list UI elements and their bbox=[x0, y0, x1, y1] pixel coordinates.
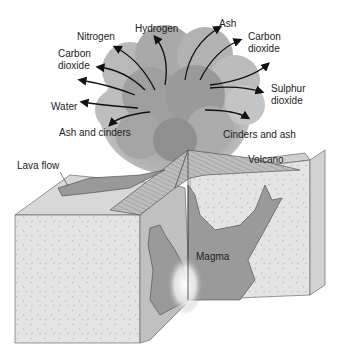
label-lava-flow: Lava flow bbox=[17, 160, 59, 172]
label-cinders-and-ash: Cinders and ash bbox=[223, 129, 296, 141]
eruption-cloud bbox=[95, 25, 265, 175]
label-sulphur-dioxide-2: dioxide bbox=[271, 95, 303, 107]
label-ash-and-cinders: Ash and cinders bbox=[59, 127, 131, 139]
label-ash: Ash bbox=[219, 18, 236, 30]
label-volcano: Volcano bbox=[248, 154, 284, 166]
label-hydrogen: Hydrogen bbox=[135, 23, 178, 35]
label-sulphur-dioxide-1: Sulphur bbox=[271, 83, 305, 95]
volcano-diagram bbox=[0, 0, 338, 353]
label-water: Water bbox=[51, 101, 77, 113]
label-carbon-dioxide-left-1: Carbon bbox=[58, 48, 91, 60]
label-carbon-dioxide-right-2: dioxide bbox=[248, 43, 280, 55]
label-magma: Magma bbox=[196, 251, 229, 263]
label-nitrogen: Nitrogen bbox=[77, 31, 115, 43]
label-carbon-dioxide-left-2: dioxide bbox=[58, 60, 90, 72]
label-carbon-dioxide-right-1: Carbon bbox=[248, 31, 281, 43]
